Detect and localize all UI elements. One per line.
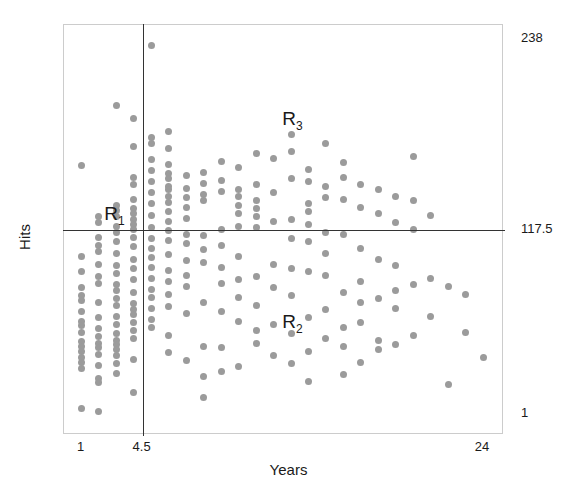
data-point — [340, 231, 347, 238]
data-point — [130, 256, 137, 263]
data-point — [78, 329, 85, 336]
data-point — [165, 291, 172, 298]
region-label-subscript: 2 — [296, 322, 303, 336]
data-point — [270, 189, 277, 196]
x-tick-label: 24 — [475, 440, 489, 453]
data-point — [305, 178, 312, 185]
data-point — [340, 196, 347, 203]
data-point — [113, 270, 120, 277]
data-point — [95, 351, 102, 358]
data-point — [305, 268, 312, 275]
data-point — [113, 262, 120, 269]
data-point — [130, 327, 137, 334]
data-point — [218, 158, 225, 165]
data-point — [95, 379, 102, 386]
data-point — [130, 335, 137, 342]
data-point — [445, 283, 452, 290]
data-point — [253, 150, 260, 157]
data-point — [95, 261, 102, 268]
data-point — [130, 234, 137, 241]
data-point — [462, 329, 469, 336]
data-point — [340, 371, 347, 378]
region-label-letter: R — [104, 203, 118, 224]
data-point — [357, 278, 364, 285]
y-tick-label: 238 — [521, 31, 543, 44]
data-point — [235, 210, 242, 217]
data-point — [130, 389, 137, 396]
data-point — [148, 245, 155, 252]
data-point — [305, 238, 312, 245]
data-point — [253, 302, 260, 309]
data-point — [340, 174, 347, 181]
data-point — [148, 140, 155, 147]
data-point — [253, 327, 260, 334]
data-point — [113, 313, 120, 320]
data-point — [322, 335, 329, 342]
data-point — [357, 319, 364, 326]
data-point — [235, 223, 242, 230]
data-point — [235, 164, 242, 171]
data-point — [78, 308, 85, 315]
data-point — [95, 314, 102, 321]
data-point — [218, 308, 225, 315]
data-point — [148, 254, 155, 261]
data-point — [130, 181, 137, 188]
data-point — [480, 354, 487, 361]
region-label-subscript: 1 — [118, 214, 125, 228]
data-point — [95, 219, 102, 226]
data-point — [305, 314, 312, 321]
data-point — [113, 238, 120, 245]
region-label-r2: R2 — [282, 312, 302, 335]
data-point — [218, 368, 225, 375]
data-point — [200, 180, 207, 187]
data-point — [148, 212, 155, 219]
data-point — [200, 197, 207, 204]
data-point — [392, 305, 399, 312]
data-point — [148, 156, 155, 163]
data-point — [270, 352, 277, 359]
data-point — [148, 235, 155, 242]
data-point — [183, 283, 190, 290]
data-point — [340, 324, 347, 331]
data-point — [322, 140, 329, 147]
scatter-points-layer — [64, 25, 502, 433]
data-point — [322, 272, 329, 279]
data-point — [235, 276, 242, 283]
y-tick-label: 1 — [521, 406, 528, 419]
data-point — [200, 232, 207, 239]
data-point — [357, 181, 364, 188]
data-point — [95, 248, 102, 255]
data-point — [183, 185, 190, 192]
data-point — [78, 297, 85, 304]
data-point — [375, 210, 382, 217]
data-point — [78, 284, 85, 291]
data-point — [288, 360, 295, 367]
data-point — [218, 242, 225, 249]
data-point — [288, 235, 295, 242]
data-point — [78, 162, 85, 169]
data-point — [165, 237, 172, 244]
data-point — [130, 289, 137, 296]
data-point — [200, 259, 207, 266]
data-point — [288, 148, 295, 155]
data-point — [218, 280, 225, 287]
data-point — [322, 183, 329, 190]
data-point — [165, 267, 172, 274]
data-point — [183, 240, 190, 247]
data-point — [305, 166, 312, 173]
data-point — [148, 200, 155, 207]
data-point — [305, 348, 312, 355]
data-point — [392, 219, 399, 226]
data-point — [218, 177, 225, 184]
x-tick-label: 4.5 — [133, 440, 151, 453]
data-point — [392, 287, 399, 294]
data-point — [270, 321, 277, 328]
data-point — [375, 337, 382, 344]
data-point — [288, 175, 295, 182]
region-label-letter: R — [282, 108, 296, 129]
regression-tree-partition-figure: R1R2R3 14.5241117.5238 Years Hits — [0, 0, 577, 498]
data-point — [78, 253, 85, 260]
data-point — [200, 169, 207, 176]
y-tick-label: 117.5 — [521, 222, 553, 235]
data-point — [95, 362, 102, 369]
